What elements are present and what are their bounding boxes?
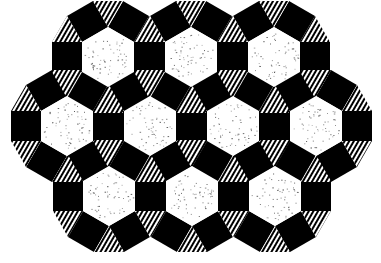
speckle-dot <box>81 132 83 133</box>
speckle-dot <box>220 128 222 129</box>
speckle-dot <box>111 72 112 73</box>
speckle-dot <box>285 197 286 198</box>
speckle-dot <box>119 73 120 74</box>
speckle-dot <box>318 116 320 117</box>
speckle-dot <box>273 206 274 207</box>
speckle-dot <box>194 186 195 187</box>
speckle-dot <box>323 124 324 125</box>
speckle-dot <box>245 139 246 140</box>
speckle-dot <box>103 41 104 42</box>
speckle-dot <box>279 215 280 216</box>
speckle-dot <box>237 106 238 107</box>
speckle-dot <box>174 65 175 66</box>
speckle-dot <box>109 45 110 46</box>
speckle-dot <box>317 129 318 130</box>
speckle-dot <box>321 150 322 151</box>
speckle-dot <box>173 68 175 69</box>
speckle-dot <box>122 185 123 186</box>
speckle-dot <box>98 210 99 211</box>
black-square <box>260 111 290 141</box>
speckle-dot <box>237 135 238 136</box>
speckle-dot <box>69 142 71 143</box>
speckle-dot <box>183 43 184 44</box>
black-square <box>53 181 83 211</box>
speckle-dot <box>97 55 98 56</box>
speckle-dot <box>107 192 108 193</box>
speckle-dot <box>83 139 84 140</box>
speckle-dot <box>248 142 249 143</box>
speckle-dot <box>81 116 82 117</box>
speckle-dot <box>294 59 296 60</box>
speckle-dot <box>211 192 212 193</box>
speckle-dot <box>187 64 189 65</box>
speckle-dot <box>149 102 150 103</box>
speckle-dot <box>155 130 157 131</box>
speckle-dot <box>212 50 213 51</box>
speckle-dot <box>190 189 191 190</box>
speckle-dot <box>299 119 301 120</box>
speckle-dot <box>265 206 266 207</box>
speckle-dot <box>278 180 279 181</box>
speckle-dot <box>126 60 127 61</box>
speckle-dot <box>215 117 216 118</box>
speckle-dot <box>187 55 188 56</box>
speckle-dot <box>140 114 141 115</box>
speckle-dot <box>313 116 315 117</box>
speckle-dot <box>311 148 313 149</box>
speckle-dot <box>58 108 60 109</box>
speckle-dot <box>281 180 282 181</box>
speckle-dot <box>95 210 97 211</box>
speckle-dot <box>119 50 120 51</box>
speckle-dot <box>281 198 282 199</box>
speckle-dot <box>187 176 188 177</box>
black-square <box>52 42 82 72</box>
speckle-dot <box>325 122 326 123</box>
speckle-dot <box>122 73 124 74</box>
speckle-dot <box>174 41 175 42</box>
speckle-dot <box>203 202 204 203</box>
speckle-dot <box>194 48 195 49</box>
speckle-dot <box>269 178 270 179</box>
speckle-dot <box>257 131 258 132</box>
speckle-dot <box>179 181 180 182</box>
speckle-dot <box>232 120 234 121</box>
speckle-dot <box>52 122 53 123</box>
speckle-dot <box>123 39 124 40</box>
speckle-dot <box>92 51 94 52</box>
speckle-dot <box>78 139 79 140</box>
speckle-dot <box>128 196 130 197</box>
black-square <box>219 181 249 211</box>
speckle-dot <box>163 146 164 147</box>
speckle-dot <box>270 78 271 79</box>
speckle-dot <box>100 60 101 61</box>
speckle-dot <box>124 54 125 55</box>
speckle-dot <box>145 149 147 150</box>
speckle-dot <box>130 199 131 200</box>
speckle-dot <box>231 143 232 144</box>
speckle-dot <box>179 59 181 60</box>
speckle-dot <box>180 201 181 202</box>
speckle-dot <box>114 183 115 184</box>
speckle-dot <box>93 193 95 194</box>
speckle-dot <box>207 51 209 52</box>
speckle-dot <box>110 49 111 50</box>
speckle-dot <box>116 44 117 45</box>
speckle-dot <box>144 118 146 119</box>
speckle-dot <box>272 60 273 61</box>
speckle-dot <box>97 206 99 207</box>
speckle-dot <box>254 135 256 136</box>
speckle-dot <box>231 111 232 112</box>
speckle-dot <box>263 41 265 42</box>
speckle-dot <box>123 198 124 199</box>
speckle-dot <box>239 128 240 129</box>
speckle-dot <box>74 148 75 149</box>
speckle-dot <box>81 128 83 129</box>
speckle-dot <box>335 120 336 121</box>
speckle-dot <box>286 216 287 217</box>
speckle-dot <box>68 116 69 117</box>
speckle-dot <box>287 189 288 190</box>
speckle-dot <box>114 213 115 214</box>
speckle-dot <box>313 105 314 106</box>
speckle-dot <box>133 118 134 119</box>
speckle-dot <box>314 147 316 148</box>
